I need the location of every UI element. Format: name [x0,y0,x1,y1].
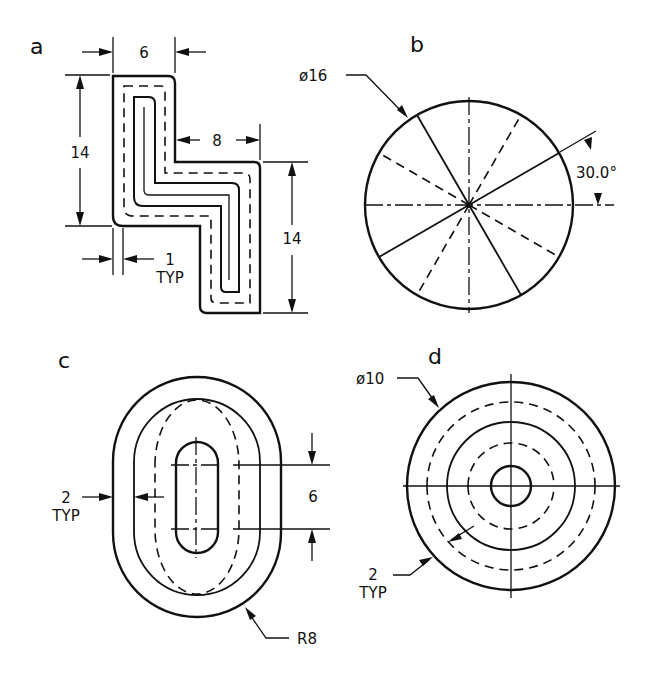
panel-a: a 6 8 14 [30,34,308,313]
dim-offset: 2 [368,566,378,584]
dim-radius: R8 [297,630,317,648]
panel-c: c 6 2 TYP R8 [51,348,330,648]
arrow-icon [134,493,148,501]
panel-c-dashed-profile-1 [155,400,239,594]
dim-step-width: 8 [212,132,222,150]
arrow-icon [76,212,84,226]
arrow-icon [288,299,296,313]
dim-offset: 2 [61,489,71,507]
panel-a-label: a [30,34,43,59]
dim-offset-note: TYP [51,507,79,525]
panel-b-label: b [410,32,424,57]
panel-d-label: d [428,344,442,369]
radial-dashed-line [379,153,469,205]
dim-slot-spacing: 6 [308,488,318,506]
arrow-icon [123,255,137,263]
arrow-icon [428,395,439,408]
engineering-drawing: a 6 8 14 [0,0,648,673]
radial-dashed-line [417,205,469,295]
arrow-icon [288,162,296,176]
dim-diameter: ø10 [356,370,384,388]
arrow-icon [99,255,113,263]
radial-line [469,205,521,295]
dim-offset-note: TYP [155,269,183,287]
dim-top-width: 6 [139,44,149,62]
arrow-icon [419,557,433,566]
radial-line [379,205,469,257]
arrow-icon [99,493,113,501]
arrow-icon [175,48,189,56]
panel-d: d ø10 2 TYP [356,344,620,602]
radial-line [417,115,469,205]
dim-offset-note: TYP [358,584,386,602]
panel-c-slot [176,442,218,553]
arrow-icon [246,136,260,144]
radial-line [469,153,559,205]
center-point [466,202,472,208]
arrow-icon [245,607,256,620]
arrow-icon [397,105,408,118]
dim-left-height: 14 [70,144,89,162]
leader-line [346,75,405,115]
arrow-icon [308,529,316,543]
arrow-icon [176,136,190,144]
dim-offset: 1 [165,251,175,269]
radial-dashed-line [469,205,559,257]
arrow-icon [594,193,602,205]
radial-dashed-line [469,115,521,205]
arrow-icon [76,75,84,89]
dim-right-height: 14 [282,230,301,248]
arrow-icon [308,451,316,465]
arrow-icon [584,137,592,150]
arrow-icon [99,48,113,56]
panel-b: b ø16 30.0° [299,32,617,313]
dim-angle: 30.0° [576,164,617,182]
dim-diameter: ø16 [299,67,327,85]
panel-c-label: c [58,348,70,373]
